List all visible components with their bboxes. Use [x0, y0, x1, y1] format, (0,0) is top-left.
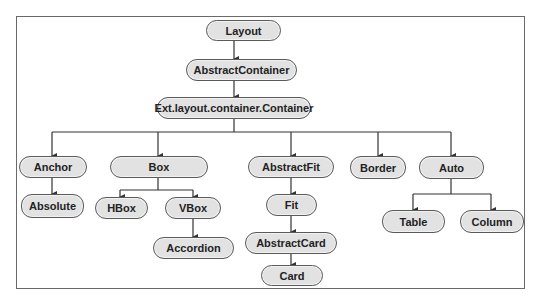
node-abstract-container: AbstractContainer: [186, 59, 297, 81]
node-auto: Auto: [419, 156, 484, 179]
node-abstract-fit: AbstractFit: [248, 156, 334, 178]
node-table: Table: [382, 210, 445, 233]
node-fit: Fit: [266, 194, 317, 216]
node-border: Border: [350, 156, 406, 179]
node-column: Column: [460, 210, 524, 233]
node-container: Ext.layout.container.Container: [157, 97, 311, 119]
node-abstract-card: AbstractCard: [245, 232, 337, 254]
node-layout: Layout: [206, 20, 281, 41]
node-hbox: HBox: [95, 197, 148, 219]
node-absolute: Absolute: [21, 194, 84, 218]
diagram-edges: [0, 0, 541, 301]
node-anchor: Anchor: [19, 156, 87, 178]
node-vbox: VBox: [165, 197, 221, 219]
node-card: Card: [261, 265, 323, 286]
node-box: Box: [110, 156, 208, 178]
node-accordion: Accordion: [153, 237, 234, 259]
